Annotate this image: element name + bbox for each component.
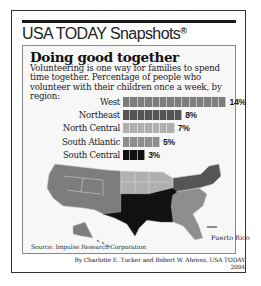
bar-segment (160, 110, 167, 120)
byline: By Charlotte E. Tucker and Robert W. Ahr… (74, 257, 245, 271)
bar-segment (130, 150, 137, 160)
bar-segment (167, 110, 174, 120)
bar (123, 110, 182, 120)
header-rule (22, 20, 236, 23)
bar-segment (219, 97, 226, 107)
bar-segment (145, 110, 152, 120)
bar-segment (153, 110, 160, 120)
bar-segment (123, 97, 130, 107)
bar-segment (123, 123, 130, 133)
bar-row: South Atlantic5% (22, 136, 236, 148)
bar-segment (138, 150, 145, 160)
bar-segment (145, 97, 152, 107)
source-note: Source: Impulse Research Corporation (31, 243, 146, 250)
map-region-northeast (173, 164, 221, 192)
bar-row: North Central7% (22, 122, 236, 134)
registered-mark: ® (180, 26, 186, 36)
bar (123, 123, 175, 133)
map-region-west (47, 164, 121, 214)
bar-value: 8% (185, 109, 197, 121)
bar-segment (153, 137, 160, 147)
bar-segment (153, 123, 160, 133)
bar-value: 3% (148, 149, 160, 161)
bar-label: South Atlantic (62, 136, 120, 148)
bar-segment (167, 97, 174, 107)
bar-label: Northeast (79, 109, 120, 121)
bar-segment (175, 97, 182, 107)
byline-year: 2004 (74, 264, 245, 271)
bar-segment (130, 123, 137, 133)
bar-segment (123, 150, 130, 160)
puerto-rico-label: Puerto Rico (211, 235, 250, 242)
bar-segment (130, 97, 137, 107)
bar-segment (190, 97, 197, 107)
bar (123, 150, 145, 160)
bar-segment (212, 97, 219, 107)
map-region-south-atlantic (171, 188, 207, 240)
bar-segment (138, 97, 145, 107)
bar-segment (175, 110, 182, 120)
bar-segment (160, 123, 167, 133)
bar (123, 97, 226, 107)
byline-authors: By Charlotte E. Tucker and Robert W. Ahr… (74, 257, 245, 264)
bar (123, 137, 160, 147)
bar-segment (138, 123, 145, 133)
bar-segment (138, 137, 145, 147)
bar-label: West (100, 96, 120, 108)
brand-text: USA TODAY Snapshots (22, 25, 180, 42)
bar-segment (145, 123, 152, 133)
bar-segment (130, 110, 137, 120)
bar-row: West14% (22, 96, 236, 108)
bar-label: South Central (63, 149, 120, 161)
bar-row: Northeast8% (22, 109, 236, 121)
bar-segment (160, 97, 167, 107)
bar-segment (204, 97, 211, 107)
bar-segment (123, 110, 130, 120)
brand-title: USA TODAY Snapshots® (22, 25, 186, 43)
bar-segment (153, 97, 160, 107)
bar-segment (167, 123, 174, 133)
bar-segment (182, 97, 189, 107)
bar-segment (130, 137, 137, 147)
bar-value: 7% (178, 122, 190, 134)
bar-row: South Central3% (22, 149, 236, 161)
bar-segment (145, 137, 152, 147)
us-region-map (23, 162, 235, 253)
bar-segment (197, 97, 204, 107)
bar-segment (138, 110, 145, 120)
bar-value: 5% (163, 136, 175, 148)
map-puerto-rico (207, 226, 217, 228)
map-alaska (73, 222, 93, 238)
bar-label: North Central (63, 122, 120, 134)
bar-segment (123, 137, 130, 147)
bar-value: 14% (230, 96, 246, 108)
